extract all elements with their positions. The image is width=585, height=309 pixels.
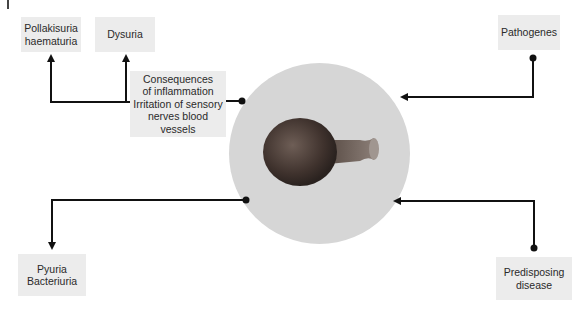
pollakisuria-box: Pollakisuria haematuria	[21, 17, 81, 52]
pathogenes-box: Pathogenes	[498, 15, 560, 50]
pyuria-box: Pyuria Bacteriuria	[18, 254, 86, 296]
consequences-box: Consequences of inflammation Irritation …	[130, 71, 226, 137]
dysuria-box: Dysuria	[95, 17, 155, 52]
predisposing-box: Predisposing disease	[496, 257, 572, 300]
